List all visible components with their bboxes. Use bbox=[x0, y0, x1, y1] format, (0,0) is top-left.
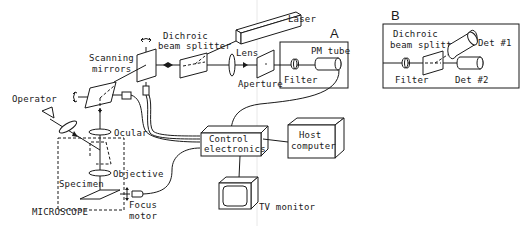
beam-direction-arrows bbox=[163, 62, 173, 68]
scanning-mirror-upper bbox=[137, 38, 156, 95]
control-electronics-label-line2: electronics bbox=[204, 144, 266, 154]
lens bbox=[229, 54, 235, 76]
control-electronics-label-line1: Control bbox=[209, 134, 248, 144]
confocal-microscope-diagram: Laser Dichroic beam splitter Lens Apertu… bbox=[0, 0, 525, 226]
dichroic-label-line1: Dichroic bbox=[163, 31, 208, 41]
tv-monitor bbox=[219, 177, 258, 209]
pm-tube-label: PM tube bbox=[311, 46, 350, 56]
focus-motor-label-line1: Focus bbox=[129, 200, 157, 210]
panel-b-filter bbox=[402, 58, 410, 68]
objective-lens bbox=[89, 170, 111, 176]
scanning-mirrors-label-line2: mirrors bbox=[92, 64, 131, 74]
tv-cable bbox=[239, 156, 240, 178]
dichroic-label-line2: beam splitter bbox=[158, 41, 231, 51]
dichroic-beam-splitter bbox=[180, 53, 207, 78]
filter-label: Filter bbox=[284, 75, 318, 85]
panel-b-letter: B bbox=[391, 8, 400, 23]
scanning-mirrors-label-line1: Scanning bbox=[89, 53, 134, 63]
aperture bbox=[257, 50, 274, 78]
specimen-label: Specimen bbox=[59, 179, 104, 189]
panel-b-filter-label: Filter bbox=[395, 75, 429, 85]
det1-label: Det #1 bbox=[478, 38, 512, 48]
microscope-label: MICROSCOPE bbox=[32, 207, 88, 217]
operator-eye-arrow bbox=[42, 107, 54, 118]
axis-arrow-bottom bbox=[98, 108, 102, 111]
host-computer-label-line1: Host bbox=[299, 130, 321, 140]
tv-monitor-label: TV monitor bbox=[259, 202, 316, 212]
lens-arrow bbox=[243, 62, 248, 68]
host-computer-label-line2: computer bbox=[291, 141, 336, 151]
operator-label: Operator bbox=[12, 94, 57, 104]
ocular-lens bbox=[89, 129, 111, 135]
scanning-mirror-lower bbox=[73, 82, 131, 108]
detector-1 bbox=[448, 30, 480, 58]
aperture-label: Aperture bbox=[238, 79, 283, 89]
ocular-label: Ocular bbox=[114, 128, 148, 138]
objective-label: Objective bbox=[113, 169, 164, 179]
eyepiece-lens bbox=[58, 119, 79, 136]
focus-motor bbox=[120, 187, 143, 201]
pm-tube bbox=[315, 58, 341, 70]
laser-label: Laser bbox=[288, 14, 316, 24]
panel-a-letter: A bbox=[330, 26, 339, 41]
filter bbox=[291, 59, 299, 69]
detector-2 bbox=[457, 57, 483, 69]
lens-label: Lens bbox=[236, 48, 258, 58]
focus-motor-label-line2: motor bbox=[129, 211, 157, 221]
specimen-stage bbox=[80, 190, 120, 199]
det2-label: Det #2 bbox=[455, 75, 489, 85]
operator-beam-arrow bbox=[72, 131, 78, 137]
mirror-cable-3 bbox=[149, 95, 200, 136]
panel-b-dichroic-line1: Dichroic bbox=[393, 29, 438, 39]
